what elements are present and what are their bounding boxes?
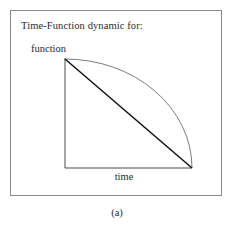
y-axis-label: function	[11, 43, 66, 55]
linear-decay-line	[65, 59, 192, 168]
plot-area	[11, 11, 223, 197]
figure-caption: (a)	[0, 206, 234, 219]
x-axis-label: time	[99, 171, 149, 183]
figure-panel: Time-Function dynamic for: function time	[10, 10, 222, 196]
